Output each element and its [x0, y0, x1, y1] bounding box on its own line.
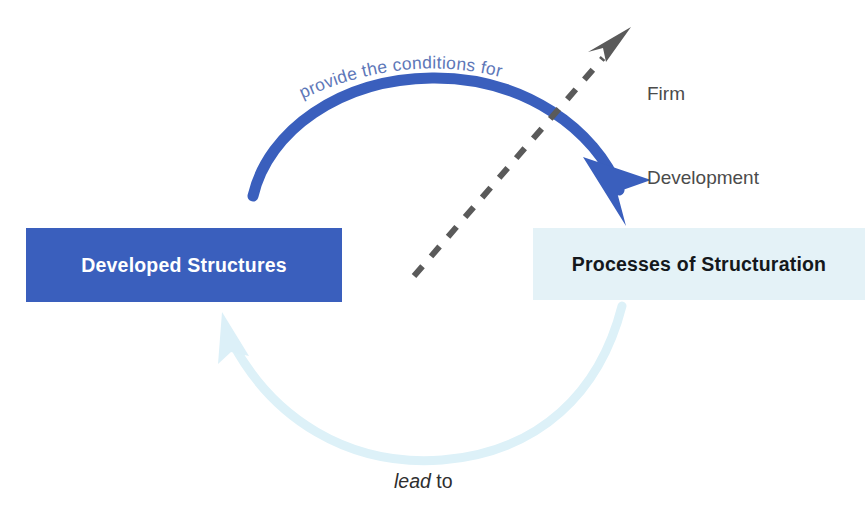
- top-provide-arrow: [253, 78, 651, 226]
- label-firm-development: Firm Development: [647, 24, 759, 248]
- label-lead-to: lead to: [394, 470, 453, 493]
- label-firm-development-line2: Development: [647, 164, 759, 192]
- node-developed-structures-label: Developed Structures: [81, 254, 287, 277]
- bottom-return-arrow: [218, 306, 622, 461]
- label-lead-to-lead: lead: [394, 470, 431, 492]
- node-processes-of-structuration-label: Processes of Structuration: [572, 253, 826, 276]
- diagram-canvas: provide the conditions for Developed Str…: [0, 0, 865, 520]
- label-lead-to-to: to: [431, 470, 453, 492]
- node-developed-structures[interactable]: Developed Structures: [26, 228, 342, 302]
- label-firm-development-line1: Firm: [647, 80, 759, 108]
